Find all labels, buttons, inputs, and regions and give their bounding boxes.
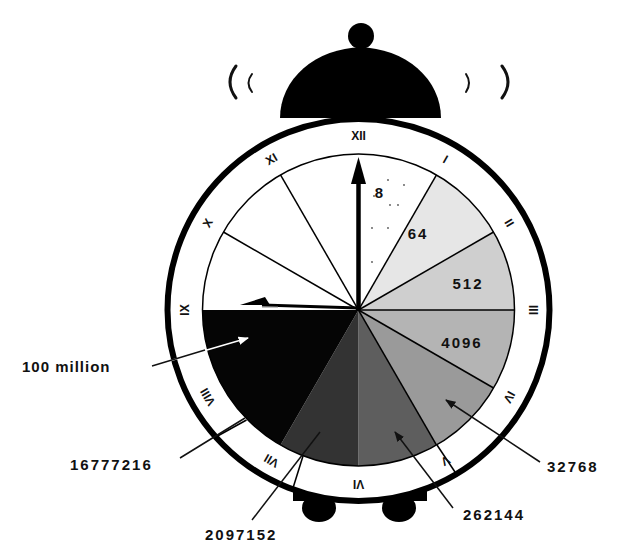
callout-label: 262144: [463, 506, 525, 523]
callout-label: 32768: [547, 458, 599, 475]
numeral-vi: VI: [353, 477, 364, 491]
numeral-iii: III: [526, 305, 540, 315]
callout-label: 2097152: [205, 526, 277, 543]
ring-mark-left-outer: [230, 66, 236, 98]
ring-mark-right-inner: [466, 74, 469, 92]
sector-label: 8: [375, 184, 385, 201]
ring-mark-right-outer: [502, 66, 508, 98]
callout-label: 100 million: [22, 358, 111, 375]
alarm-bell: [280, 23, 441, 118]
numeral-xii: XII: [351, 129, 366, 143]
sector-label: 64: [408, 225, 429, 242]
sector-label: 4096: [441, 334, 482, 351]
numeral-ix: IX: [178, 304, 192, 315]
sector-label: 512: [452, 275, 483, 292]
bell-dome: [280, 48, 441, 118]
callout-label: 16777216: [70, 456, 153, 473]
ring-mark-left-inner: [249, 74, 253, 92]
bell-knob: [348, 23, 374, 49]
alarm-clock-diagram: XIIIIIIIIIVVVIVIIVIIIIXXXI 8645124096 10…: [0, 0, 633, 559]
